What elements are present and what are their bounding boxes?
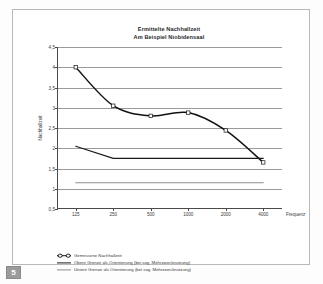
series-line	[76, 67, 264, 162]
data-point-marker	[187, 111, 190, 114]
legend-label-measured: Gemessene Nachhallzeit	[74, 252, 122, 259]
data-point-marker	[224, 129, 227, 132]
x-axis-title: Frequenz	[286, 212, 305, 217]
data-point-marker	[112, 104, 115, 107]
legend-swatch-lower-limit	[57, 266, 71, 273]
data-point-marker	[74, 66, 77, 69]
data-point-marker	[262, 161, 265, 164]
document-page-frame: Ermittelte Nachhallzeit Am Beispiel Niob…	[12, 9, 310, 265]
legend-item-upper-limit: Obere Grenze als Orientierung (bei sog. …	[57, 259, 287, 266]
data-point-marker	[149, 114, 152, 117]
x-tick-label: 1000	[183, 212, 193, 217]
legend-swatch-measured	[57, 252, 71, 259]
series-lines	[57, 47, 282, 209]
y-axis-title: Nachhallzeit	[38, 115, 43, 140]
legend-label-upper-limit: Obere Grenze als Orientierung (bei sog. …	[74, 259, 190, 266]
chart-legend: Gemessene Nachhallzeit Obere Grenze als …	[57, 252, 287, 273]
y-tick-mark	[55, 209, 58, 210]
legend-item-lower-limit: Untere Grenze als Orientierung (bei sog.…	[57, 266, 287, 273]
legend-item-measured: Gemessene Nachhallzeit	[57, 252, 287, 259]
page-number-badge: 5	[6, 266, 21, 279]
chart-container: Ermittelte Nachhallzeit Am Beispiel Niob…	[38, 20, 300, 255]
chart-subtitle: Am Beispiel Niobidensaal	[38, 34, 300, 42]
page-canvas: Ermittelte Nachhallzeit Am Beispiel Niob…	[0, 0, 323, 284]
x-tick-label: 500	[147, 212, 155, 217]
x-tick-label: 125	[72, 212, 80, 217]
legend-label-lower-limit: Untere Grenze als Orientierung (bei sog.…	[74, 266, 191, 273]
x-tick-label: 2000	[221, 212, 231, 217]
chart-title: Ermittelte Nachhallzeit	[38, 26, 300, 34]
x-tick-label: 4000	[258, 212, 268, 217]
x-tick-label: 250	[109, 212, 117, 217]
series-line	[76, 146, 264, 158]
legend-swatch-upper-limit	[57, 259, 71, 266]
plot-area: 4,543,532,521,510,5 12525050010002000400…	[57, 47, 282, 209]
